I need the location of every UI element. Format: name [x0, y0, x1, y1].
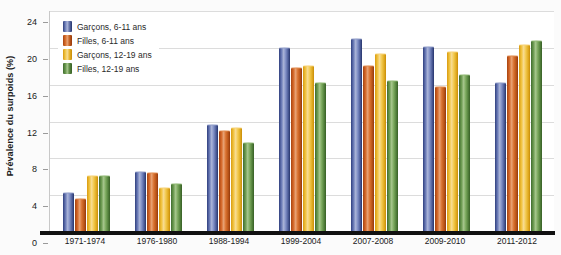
- y-tick-mark: [43, 59, 48, 60]
- bar: [279, 48, 290, 232]
- legend-swatch: [63, 63, 72, 74]
- bar-cap: [147, 172, 158, 174]
- bar-cap: [303, 65, 314, 67]
- bar: [219, 131, 230, 232]
- bar-cap: [291, 67, 302, 69]
- legend-label: Garçons, 6-11 ans: [77, 22, 146, 32]
- legend-item: Garçons, 12-19 ans: [63, 49, 152, 60]
- bar: [291, 68, 302, 232]
- x-tick-label: 2009-2010: [409, 236, 481, 246]
- bar-cap: [159, 187, 170, 189]
- bar: [75, 199, 86, 232]
- bar-cap: [171, 183, 182, 185]
- bar-cap: [207, 124, 218, 126]
- bar-cap: [351, 38, 362, 40]
- bar: [519, 45, 530, 232]
- bar-group: [338, 11, 410, 232]
- bar: [159, 188, 170, 232]
- y-tick-label: 24: [1, 17, 37, 27]
- overweight-prevalence-bar-chart: Prévalence du surpoids (%) 04812162024 1…: [0, 0, 561, 255]
- x-axis-labels: 1971-19741976-19801988-19941999-20042007…: [0, 236, 561, 255]
- bar-cap: [279, 47, 290, 49]
- legend-swatch: [63, 35, 72, 46]
- legend-swatch: [63, 21, 72, 32]
- bar: [63, 193, 74, 232]
- bar: [135, 172, 146, 232]
- bar: [459, 75, 470, 232]
- bar-cap: [99, 175, 110, 177]
- bar-group: [266, 11, 338, 232]
- x-tick-label: 2011-2012: [481, 236, 553, 246]
- y-tick-mark: [43, 133, 48, 134]
- bar-cap: [231, 127, 242, 129]
- legend-label: Filles, 6-11 ans: [77, 36, 134, 46]
- bar-cap: [375, 53, 386, 55]
- legend-item: Garçons, 6-11 ans: [63, 21, 152, 32]
- bar: [99, 176, 110, 232]
- bar-group: [482, 11, 554, 232]
- bar: [351, 39, 362, 232]
- y-axis-ticks: 04812162024: [0, 11, 49, 232]
- bar-group: [410, 11, 482, 232]
- y-tick-label: 4: [1, 201, 37, 211]
- y-tick-mark: [43, 96, 48, 97]
- bar: [231, 128, 242, 232]
- bar: [495, 83, 506, 232]
- bar: [423, 47, 434, 232]
- legend-label: Garçons, 12-19 ans: [77, 50, 152, 60]
- bar-cap: [447, 51, 458, 53]
- bar: [243, 143, 254, 232]
- x-tick-label: 2007-2008: [337, 236, 409, 246]
- bar-cap: [459, 74, 470, 76]
- bar: [147, 173, 158, 232]
- x-tick-label: 1999-2004: [265, 236, 337, 246]
- bar: [507, 56, 518, 232]
- bar-cap: [495, 82, 506, 84]
- y-tick-label: 16: [1, 91, 37, 101]
- bar: [207, 125, 218, 232]
- legend-item: Filles, 12-19 ans: [63, 63, 152, 74]
- bar-group: [194, 11, 266, 232]
- bar: [303, 66, 314, 232]
- bar: [531, 41, 542, 232]
- bar-cap: [87, 175, 98, 177]
- y-tick-mark: [43, 206, 48, 207]
- legend-item: Filles, 6-11 ans: [63, 35, 152, 46]
- x-tick-label: 1976-1980: [121, 236, 193, 246]
- bar-cap: [243, 142, 254, 144]
- bar-cap: [315, 82, 326, 84]
- bar-cap: [75, 198, 86, 200]
- y-tick-label: 8: [1, 164, 37, 174]
- legend-swatch: [63, 49, 72, 60]
- bar-cap: [387, 80, 398, 82]
- bar-cap: [219, 130, 230, 132]
- bar-cap: [135, 171, 146, 173]
- bar: [171, 184, 182, 232]
- bar: [375, 54, 386, 232]
- y-tick-mark: [43, 169, 48, 170]
- y-tick-mark: [43, 22, 48, 23]
- bar-cap: [63, 192, 74, 194]
- x-axis-baseline: [40, 231, 555, 235]
- bar: [87, 176, 98, 232]
- x-tick-label: 1988-1994: [193, 236, 265, 246]
- bar-cap: [435, 86, 446, 88]
- bar-cap: [423, 46, 434, 48]
- y-tick-label: 20: [1, 54, 37, 64]
- legend-label: Filles, 12-19 ans: [77, 64, 139, 74]
- x-tick-label: 1971-1974: [49, 236, 121, 246]
- bar: [363, 66, 374, 232]
- bar-cap: [363, 65, 374, 67]
- y-tick-label: 12: [1, 128, 37, 138]
- bar: [315, 83, 326, 232]
- chart-legend: Garçons, 6-11 ansFilles, 6-11 ansGarçons…: [58, 17, 159, 79]
- bar: [447, 52, 458, 232]
- bar: [435, 87, 446, 232]
- bar-cap: [531, 40, 542, 42]
- bar-cap: [519, 44, 530, 46]
- bar: [387, 81, 398, 232]
- bar-cap: [507, 55, 518, 57]
